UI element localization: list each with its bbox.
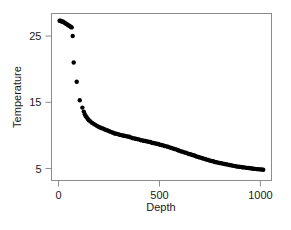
data-point — [261, 168, 265, 172]
x-tick-label: 0 — [56, 189, 62, 201]
y-tick-label: 5 — [35, 163, 41, 175]
y-tick-label: 15 — [29, 96, 41, 108]
scatter-plot: 51525 05001000 Depth Temperature — [0, 0, 291, 230]
footer-clipped-text — [0, 225, 291, 230]
x-tick-label: 500 — [150, 189, 168, 201]
y-axis-title: Temperature — [11, 66, 23, 128]
data-point — [72, 60, 76, 64]
data-point — [69, 25, 73, 29]
y-tick-label: 25 — [29, 30, 41, 42]
data-point — [78, 98, 82, 102]
data-point — [80, 105, 84, 109]
x-tick-label: 1000 — [248, 189, 272, 201]
data-point — [70, 34, 74, 38]
x-axis-title: Depth — [146, 201, 175, 213]
data-point — [75, 80, 79, 84]
figure-container: 51525 05001000 Depth Temperature — [0, 0, 291, 230]
